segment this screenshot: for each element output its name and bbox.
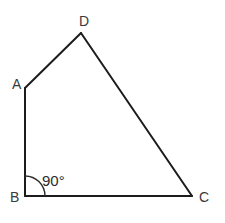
angle-label-b: 90° — [42, 172, 65, 189]
figure-canvas: 90° A D C B — [0, 0, 225, 223]
edge-d-c — [81, 33, 192, 196]
vertex-label-b: B — [10, 189, 19, 205]
vertex-label-c: C — [199, 189, 209, 205]
vertex-label-a: A — [12, 76, 22, 92]
geometry-figure: 90° A D C B — [0, 0, 225, 223]
edge-a-d — [25, 33, 81, 88]
vertex-label-d: D — [79, 13, 89, 29]
